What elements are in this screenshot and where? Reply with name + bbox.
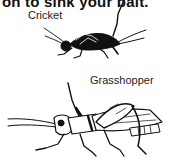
- cricket-drawing: [44, 0, 146, 58]
- insect-illustration: [0, 0, 169, 163]
- grasshopper-drawing: [8, 83, 162, 156]
